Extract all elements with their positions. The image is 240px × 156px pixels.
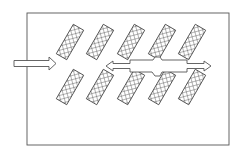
panel-row-top <box>56 24 205 59</box>
panel <box>117 24 144 59</box>
panel <box>86 69 113 104</box>
panel <box>178 69 205 104</box>
panel <box>56 69 83 104</box>
panel <box>178 24 205 59</box>
diagram-canvas <box>0 0 240 156</box>
panel <box>86 24 113 59</box>
panel <box>56 24 83 59</box>
panel <box>148 24 175 59</box>
inlet-arrow-icon <box>14 57 56 70</box>
panel-row-bottom <box>56 69 205 104</box>
panel <box>117 69 144 104</box>
panel <box>148 69 175 104</box>
